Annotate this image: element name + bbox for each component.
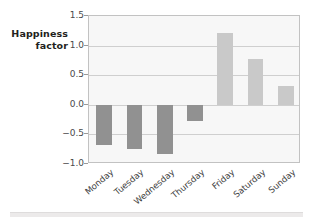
gridline — [89, 134, 299, 135]
x-axis-tick-label: Sunday — [266, 167, 297, 195]
y-axis-tick-label: −0.5 — [50, 128, 84, 138]
y-axis-tick-mark — [84, 15, 88, 16]
y-axis-tick-labels: 1.51.00.50.0−0.5−1.0 — [48, 15, 84, 163]
y-axis-tick-label: −1.0 — [50, 158, 84, 168]
y-axis-tick-label: 0.0 — [50, 99, 84, 109]
y-axis-tick-label: 1.0 — [50, 40, 84, 50]
y-axis-tick-mark — [84, 104, 88, 105]
bar-wednesday — [157, 105, 173, 154]
x-axis-tick-label: Saturday — [231, 167, 267, 200]
plot-area — [88, 15, 300, 163]
gridline — [89, 46, 299, 47]
bar-monday — [96, 105, 112, 145]
bar-thursday — [187, 105, 203, 122]
bar-tuesday — [127, 105, 143, 149]
x-axis-tick-label: Friday — [210, 167, 236, 191]
bar-sunday — [278, 86, 294, 105]
bar-saturday — [248, 59, 264, 105]
x-axis-tick-label: Monday — [83, 167, 115, 196]
bar-friday — [217, 33, 233, 105]
bar-chart-figure: Happiness factor 1.51.00.50.0−0.5−1.0 Mo… — [0, 0, 313, 222]
y-axis-tick-mark — [84, 74, 88, 75]
y-axis-tick-label: 1.5 — [50, 10, 84, 20]
gridline — [89, 75, 299, 76]
bottom-divider-line — [10, 212, 303, 213]
y-axis-tick-mark — [84, 133, 88, 134]
y-axis-tick-mark — [84, 163, 88, 164]
y-axis-tick-mark — [84, 45, 88, 46]
y-axis-tick-label: 0.5 — [50, 69, 84, 79]
